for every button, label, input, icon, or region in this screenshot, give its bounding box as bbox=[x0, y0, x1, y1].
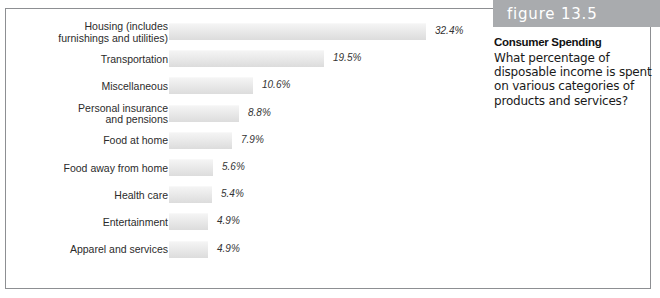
bar-category-label: Entertainment bbox=[8, 217, 168, 229]
figure-container: Housing (includes furnishings and utilit… bbox=[0, 0, 660, 298]
bar-shape bbox=[169, 50, 324, 67]
bar-shape bbox=[169, 132, 232, 149]
bar-row: Food at home7.9% bbox=[6, 132, 488, 156]
bar-row: Entertainment4.9% bbox=[6, 213, 488, 237]
bar-shape bbox=[169, 213, 208, 230]
bar-row: Miscellaneous10.6% bbox=[6, 77, 488, 101]
bar-value-label: 7.9% bbox=[241, 134, 264, 145]
bar-value-label: 4.9% bbox=[217, 215, 240, 226]
bar-category-label: Food at home bbox=[8, 135, 168, 147]
bar-row: Health care5.4% bbox=[6, 186, 488, 210]
bar-category-label: Apparel and services bbox=[8, 244, 168, 256]
bar-value-label: 5.4% bbox=[221, 188, 244, 199]
bar-category-label: Housing (includes furnishings and utilit… bbox=[8, 21, 168, 44]
bar-category-label: Food away from home bbox=[8, 163, 168, 175]
bar-value-label: 10.6% bbox=[262, 79, 290, 90]
bar-shape bbox=[169, 23, 426, 40]
bar-shape bbox=[169, 159, 213, 176]
bar-shape bbox=[169, 186, 212, 203]
bar-category-label: Miscellaneous bbox=[8, 81, 168, 93]
figure-number-label: figure 13.5 bbox=[507, 5, 598, 23]
bar-shape bbox=[169, 77, 253, 94]
caption-title: Consumer Spending bbox=[494, 36, 654, 48]
bar-value-label: 32.4% bbox=[435, 25, 463, 36]
bar-value-label: 8.8% bbox=[248, 107, 271, 118]
bar-value-label: 4.9% bbox=[217, 243, 240, 254]
bar-value-label: 19.5% bbox=[333, 52, 361, 63]
bar-row: Food away from home5.6% bbox=[6, 159, 488, 183]
bar-row: Transportation19.5% bbox=[6, 50, 488, 74]
bar-row: Apparel and services4.9% bbox=[6, 241, 488, 265]
bar-chart: Housing (includes furnishings and utilit… bbox=[6, 9, 488, 290]
bar-category-label: Personal insurance and pensions bbox=[8, 103, 168, 126]
bar-value-label: 5.6% bbox=[222, 161, 245, 172]
bar-category-label: Transportation bbox=[8, 54, 168, 66]
bar-category-label: Health care bbox=[8, 190, 168, 202]
caption-body-text: What percentage of disposable income is … bbox=[494, 51, 657, 108]
caption-panel: figure 13.5 Consumer Spending What perce… bbox=[488, 0, 660, 298]
bar-row: Housing (includes furnishings and utilit… bbox=[6, 23, 488, 47]
bar-shape bbox=[169, 105, 239, 122]
figure-number-band: figure 13.5 bbox=[493, 0, 660, 27]
bar-shape bbox=[169, 241, 208, 258]
bar-row: Personal insurance and pensions8.8% bbox=[6, 105, 488, 129]
